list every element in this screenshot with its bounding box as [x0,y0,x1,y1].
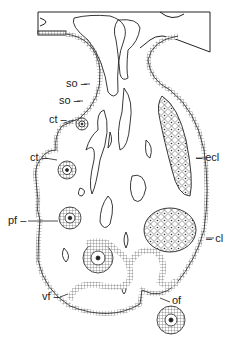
mesovarium [38,12,210,52]
label-ecl: – ecl [196,152,219,163]
corpus-luteum [144,208,196,252]
label-vf: vf – [42,291,60,302]
label-of: of [172,295,181,306]
label-ct-2: ct – [30,152,48,163]
ovary-diagram [0,0,239,347]
label-so-2: so – [59,95,80,106]
label-so-1: so – [66,78,87,89]
label-ct-1: ct – [49,114,67,125]
label-pf: pf – [8,215,26,226]
label-cl: – cl [206,233,223,244]
